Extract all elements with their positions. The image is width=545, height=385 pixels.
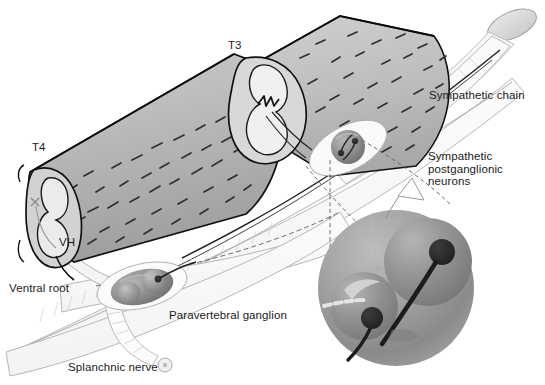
ganglion-sphere-left [118, 282, 140, 304]
inset-sphere-upper-right [384, 218, 472, 306]
label-sympathetic-chain: Sympathetic chain [429, 89, 525, 102]
label-sympathetic-postganglionic-neurons: Sympathetic postganglionic neurons [428, 150, 503, 188]
label-ventral-root: Ventral root [9, 282, 69, 295]
t4-bracket-upper [18, 165, 24, 182]
splanchnic-nerve-cut-core [163, 363, 167, 367]
upper-ganglion-core [331, 130, 365, 164]
t4-bracket-lower [18, 240, 24, 262]
label-t3: T3 [228, 39, 242, 52]
paravertebral-neuron-body [155, 276, 162, 283]
label-vh: VH [59, 236, 75, 249]
label-paravertebral-ganglion: Paravertebral ganglion [169, 309, 287, 322]
inset-neuron-body-2 [361, 307, 383, 329]
ganglion-sphere-right [142, 269, 166, 293]
magnified-neuron-inset [318, 210, 474, 366]
label-t4: T4 [32, 141, 46, 154]
anatomy-figure: T3 T4 VH Ventral root Splanchnic nerve P… [0, 0, 545, 385]
inset-neuron-body-1 [429, 239, 455, 265]
anatomy-illustration [0, 0, 545, 385]
label-splanchnic-nerve: Splanchnic nerve [68, 361, 158, 374]
